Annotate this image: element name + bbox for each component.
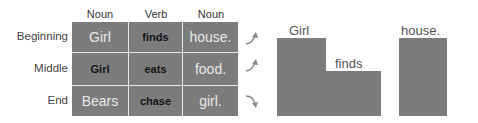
grid-cell: Bears — [72, 86, 128, 116]
block-label-house: house. — [401, 23, 440, 38]
grid-cell: chase — [129, 86, 182, 116]
grid-cell: house. — [183, 22, 238, 52]
grid-cell: Girl — [72, 53, 128, 85]
curved-arrow-up-icon — [244, 30, 262, 48]
sentence-grid: Girl finds house. Girl eats food. Bears … — [72, 22, 238, 116]
row-header-end: End — [0, 94, 68, 106]
grid-cell: food. — [183, 53, 238, 85]
grid-cell: girl. — [183, 86, 238, 116]
block-label-finds: finds — [335, 56, 362, 71]
curved-arrow-up-icon — [244, 57, 262, 75]
row-header-middle: Middle — [0, 62, 68, 74]
column-header-noun-1: Noun — [72, 8, 128, 20]
grid-cell: finds — [129, 22, 182, 52]
block-girl — [277, 38, 326, 116]
column-header-verb: Verb — [129, 8, 183, 20]
block-finds — [326, 71, 381, 116]
block-label-girl: Girl — [289, 23, 309, 38]
curved-arrow-down-icon — [244, 92, 262, 110]
row-header-beginning: Beginning — [0, 30, 68, 42]
column-header-noun-2: Noun — [184, 8, 238, 20]
block-house — [399, 38, 447, 116]
grid-cell: eats — [129, 53, 182, 85]
grid-cell: Girl — [72, 22, 128, 52]
